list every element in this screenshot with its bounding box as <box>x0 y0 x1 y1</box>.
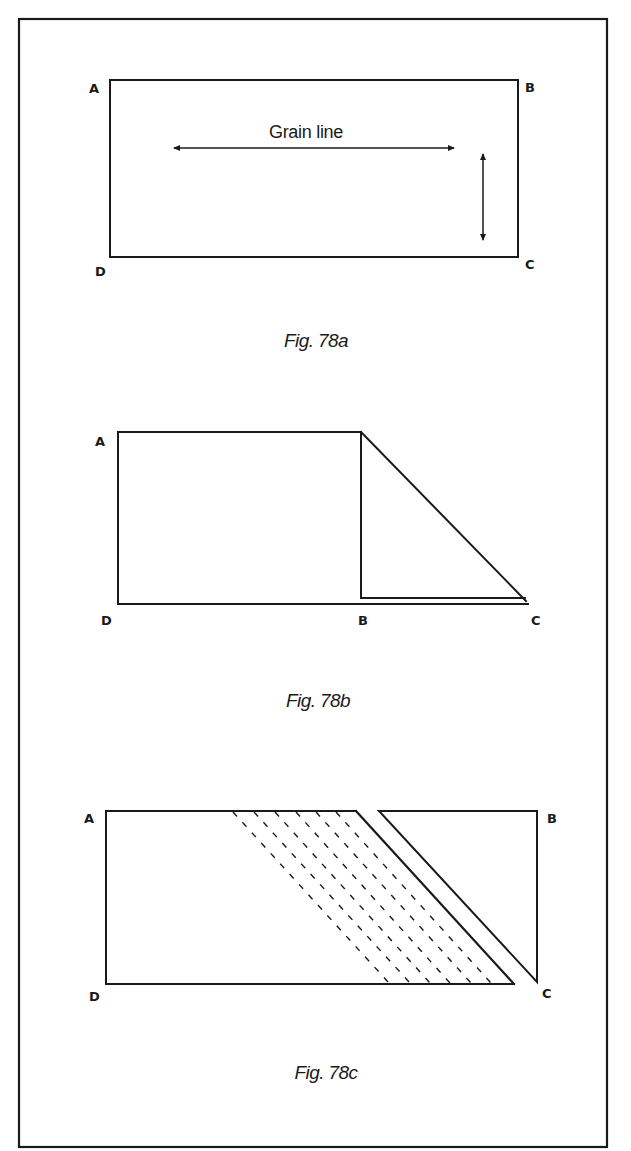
folded-rectangle <box>118 432 528 604</box>
figure-caption: Fig. 78c <box>295 1062 359 1083</box>
bias-diagonal <box>361 432 526 601</box>
grain-line-label: Grain line <box>269 122 343 142</box>
bias-cut-edge <box>356 811 514 984</box>
bias-strip-lines <box>233 812 491 983</box>
corner-label-c: C <box>542 986 552 1001</box>
fabric-rectangle <box>110 80 518 257</box>
figure-caption: Fig. 78a <box>284 330 348 351</box>
corner-label-d: D <box>95 264 106 279</box>
corner-label-d: D <box>89 989 100 1004</box>
corner-label-d: D <box>101 613 112 628</box>
bias-cut-piece <box>106 811 514 984</box>
corner-label-b: B <box>525 80 535 95</box>
corner-label-b: B <box>358 613 368 628</box>
figure-78a: A B C D Grain line Fig. 78a <box>89 80 535 351</box>
corner-label-c: C <box>525 257 535 272</box>
figure-78b: A B C D Fig. 78b <box>95 432 541 711</box>
figure-caption: Fig. 78b <box>286 690 350 711</box>
corner-label-a: A <box>84 811 94 826</box>
cut-off-triangle <box>379 811 537 982</box>
corner-label-a: A <box>89 81 99 96</box>
corner-label-a: A <box>95 434 105 449</box>
corner-label-b: B <box>547 811 557 826</box>
corner-label-c: C <box>531 613 541 628</box>
figure-panel: A B C D Grain line Fig. 78a A B C D Fig.… <box>0 0 631 1151</box>
figure-78c: A B C D Fig. 78c <box>84 811 557 1083</box>
